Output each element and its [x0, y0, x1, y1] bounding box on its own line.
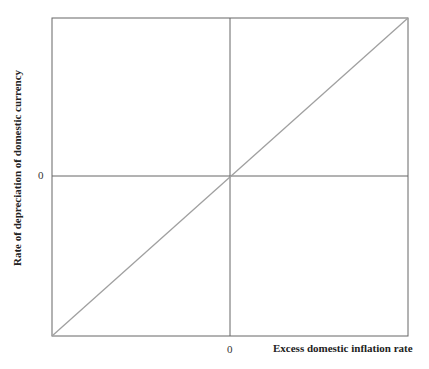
y-tick-zero: 0 [38, 169, 44, 181]
chart-canvas [0, 0, 429, 369]
x-axis-label: Excess domestic inflation rate [273, 342, 413, 354]
x-tick-zero: 0 [227, 343, 233, 355]
y-axis-label: Rate of depreciation of domestic currenc… [11, 86, 23, 266]
